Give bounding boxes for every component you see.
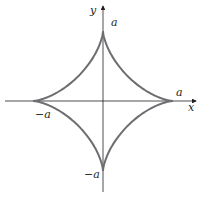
y-axis-label: y [89, 4, 97, 17]
right-cusp-label: a [176, 86, 183, 99]
astroid-diagram: y a −a a x −a [0, 0, 205, 199]
diagram-svg: y a −a a x −a [0, 0, 205, 199]
left-cusp-label: −a [35, 108, 51, 121]
bottom-cusp-label: −a [84, 168, 100, 181]
top-cusp-label: a [111, 16, 118, 29]
x-axis-label: x [188, 101, 195, 114]
